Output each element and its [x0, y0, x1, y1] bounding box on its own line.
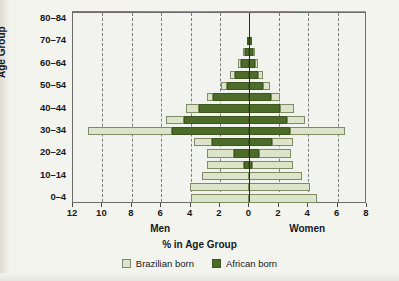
y-axis-tick-label: 60–64 [0, 57, 66, 68]
zero-axis-line [249, 13, 250, 202]
bar-men-african-born [241, 59, 249, 67]
bar-women-brazilian-born [287, 116, 305, 124]
bar-men-brazilian-born [186, 104, 198, 112]
bar-men-brazilian-born [230, 71, 235, 79]
bar-men-brazilian-born [202, 172, 250, 180]
bar-women-african-born [249, 93, 270, 101]
bar-men-brazilian-born [166, 116, 184, 124]
population-pyramid-figure: Age Group 0–410–1420–2430–3440–4450–5460… [0, 0, 399, 281]
x-axis-label-women: Women [272, 223, 342, 234]
y-axis-tick-label: 20–24 [0, 146, 66, 157]
legend-item-brazilian: Brazilian born [122, 258, 194, 269]
pyramid-row [73, 104, 365, 112]
legend: Brazilian bornAfrican born [0, 258, 399, 269]
pyramid-row [73, 116, 365, 124]
pyramid-row [73, 161, 365, 169]
y-axis-tick-label: 80–84 [0, 12, 66, 23]
bar-men-brazilian-born [207, 93, 214, 101]
bar-men-african-born [199, 104, 250, 112]
bar-women-brazilian-born [259, 149, 291, 157]
pyramid-row [73, 149, 365, 157]
bar-men-african-born [184, 116, 249, 124]
bar-women-african-born [249, 149, 259, 157]
pyramid-row [73, 48, 365, 56]
x-axis-label-men: Men [125, 223, 195, 234]
bar-women-brazilian-born [249, 194, 317, 202]
bar-women-african-born [249, 138, 272, 146]
legend-item-african: African born [212, 258, 277, 269]
legend-label: African born [226, 258, 277, 269]
bar-men-brazilian-born [88, 127, 173, 135]
x-axis-tick-label: 0 [233, 207, 263, 218]
pyramid-row [73, 59, 365, 67]
legend-swatch-african-icon [212, 259, 221, 268]
bar-women-african-born [249, 71, 258, 79]
bar-men-african-born [172, 127, 249, 135]
y-axis-tick-label: 30–34 [0, 124, 66, 135]
bar-men-brazilian-born [207, 161, 244, 169]
bar-men-african-born [213, 93, 249, 101]
pyramid-row [73, 172, 365, 180]
bar-men-brazilian-born [221, 82, 227, 90]
bar-men-african-born [212, 138, 249, 146]
legend-label: Brazilian born [136, 258, 194, 269]
bar-men-brazilian-born [243, 48, 245, 56]
x-axis-tick-label: 2 [204, 207, 234, 218]
bar-women-brazilian-born [280, 104, 294, 112]
bar-men-brazilian-born [194, 138, 212, 146]
y-axis-tick-label: 50–54 [0, 79, 66, 90]
bar-men-brazilian-born [190, 183, 250, 191]
legend-swatch-brazilian-icon [122, 259, 131, 268]
bar-women-brazilian-born [263, 82, 270, 90]
pyramid-row [73, 26, 365, 34]
bar-women-african-born [249, 127, 289, 135]
pyramid-row [73, 138, 365, 146]
bar-women-brazilian-born [249, 172, 301, 180]
x-axis-title: % in Age Group [0, 239, 399, 250]
y-axis-tick-label: 10–14 [0, 169, 66, 180]
bar-men-african-born [235, 71, 249, 79]
bar-men-brazilian-born [207, 149, 234, 157]
bar-women-brazilian-born [258, 71, 263, 79]
pyramid-row [73, 93, 365, 101]
bar-women-brazilian-born [290, 127, 345, 135]
x-axis-tick-label: 6 [145, 207, 175, 218]
pyramid-row [73, 37, 365, 45]
bar-women-brazilian-born [249, 183, 309, 191]
x-axis-tick-label: 4 [292, 207, 322, 218]
bar-men-brazilian-born [191, 194, 250, 202]
bar-men-african-born [227, 82, 250, 90]
bar-women-brazilian-born [252, 161, 293, 169]
y-axis-tick-label: 70–74 [0, 34, 66, 45]
scan-edge-bottom [0, 273, 399, 281]
y-axis-tick-label: 0–4 [0, 191, 66, 202]
bar-women-african-born [249, 116, 286, 124]
x-axis-tick-label: 12 [57, 207, 87, 218]
bar-women-brazilian-born [253, 48, 255, 56]
bar-men-african-born [234, 149, 249, 157]
bar-women-brazilian-born [255, 59, 258, 67]
plot-area [72, 12, 366, 203]
pyramid-row [73, 127, 365, 135]
x-axis-tick-label: 10 [86, 207, 116, 218]
pyramid-row [73, 183, 365, 191]
pyramid-row [73, 82, 365, 90]
bar-women-african-born [249, 82, 263, 90]
bar-women-brazilian-born [272, 138, 293, 146]
x-axis-tick-label: 4 [175, 207, 205, 218]
pyramid-row [73, 71, 365, 79]
bar-women-brazilian-born [271, 93, 280, 101]
x-axis-tick-label: 2 [263, 207, 293, 218]
x-axis-tick-label: 6 [322, 207, 352, 218]
x-axis-tick-label: 8 [116, 207, 146, 218]
pyramid-row [73, 194, 365, 202]
y-axis-tick-label: 40–44 [0, 102, 66, 113]
bar-women-african-born [249, 104, 280, 112]
x-axis-tick-label: 8 [351, 207, 381, 218]
bar-men-brazilian-born [238, 59, 241, 67]
pyramid-row [73, 14, 365, 22]
